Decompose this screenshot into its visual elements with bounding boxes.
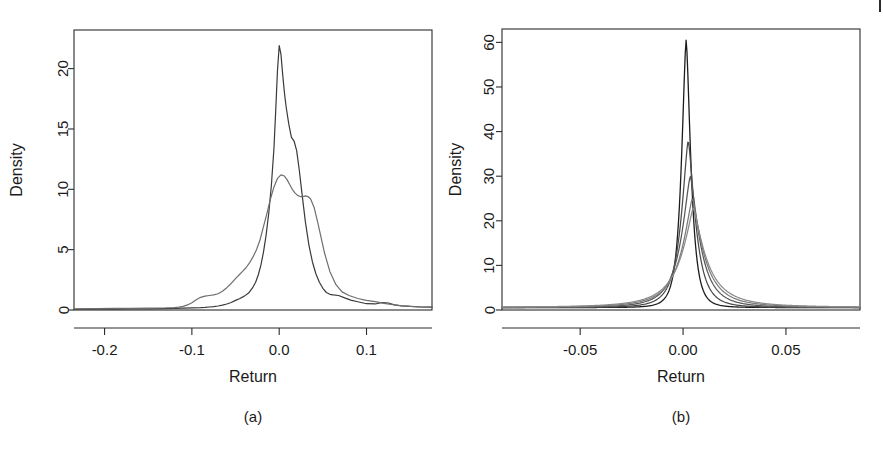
- panel-a-plot: 05101520-0.2-0.10.00.1ReturnDensity(a): [0, 0, 441, 470]
- x-ticklabel-a: -0.2: [92, 341, 118, 358]
- curve-density-light: [74, 175, 432, 309]
- x-ticklabel-b: 0.05: [771, 341, 800, 358]
- xlabel-a: Return: [229, 368, 277, 385]
- curve-density-3-midgray: [502, 176, 860, 307]
- y-ticklabel-a: 5: [55, 245, 72, 253]
- caption-a: (a): [244, 408, 262, 425]
- x-ticklabel-a: -0.1: [179, 341, 205, 358]
- y-ticklabel-b: 20: [481, 212, 498, 229]
- y-ticklabel-b: 0: [481, 306, 498, 314]
- ylabel-b: Density: [447, 143, 464, 196]
- x-ticklabel-a: 0.1: [356, 341, 377, 358]
- y-ticklabel-b: 30: [481, 168, 498, 185]
- y-ticklabel-a: 15: [55, 121, 72, 138]
- y-ticklabel-b: 40: [481, 123, 498, 140]
- y-ticklabel-a: 0: [55, 306, 72, 314]
- x-ticklabel-a: 0.0: [269, 341, 290, 358]
- figure-container: 05101520-0.2-0.10.00.1ReturnDensity(a) 0…: [0, 0, 883, 470]
- curve-density-1-black: [502, 40, 860, 307]
- panel-b: 0102030405060-0.050.000.05ReturnDensity(…: [441, 0, 883, 470]
- panel-b-plot: 0102030405060-0.050.000.05ReturnDensity(…: [441, 0, 883, 470]
- y-ticklabel-a: 10: [55, 181, 72, 198]
- x-ticklabel-b: -0.05: [563, 341, 597, 358]
- y-ticklabel-a: 20: [55, 60, 72, 77]
- x-ticklabel-b: 0.00: [668, 341, 697, 358]
- y-ticklabel-b: 60: [481, 34, 498, 51]
- plot-frame-a: [74, 30, 432, 310]
- panel-a: 05101520-0.2-0.10.00.1ReturnDensity(a): [0, 0, 441, 470]
- caption-b: (b): [672, 408, 690, 425]
- y-ticklabel-b: 50: [481, 79, 498, 96]
- ylabel-a: Density: [8, 143, 25, 196]
- y-ticklabel-b: 10: [481, 257, 498, 274]
- curve-density-dark: [74, 46, 432, 310]
- xlabel-b: Return: [657, 368, 705, 385]
